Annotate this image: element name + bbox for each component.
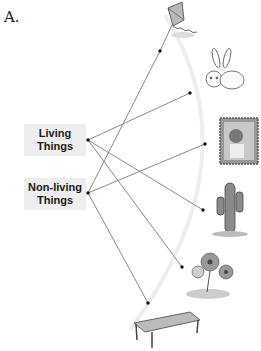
line-living-rabbit [88,93,190,140]
line-living-cactus [88,140,203,210]
dot-rabbit [188,91,191,94]
connection-lines [88,25,205,303]
kite-icon [168,2,197,38]
dot-stamp [203,142,206,145]
dot-table [146,301,149,304]
dot-cactus [201,208,204,211]
rabbit-icon [206,48,244,89]
line-nonliving-stamp [88,144,205,193]
kite-string [160,25,172,51]
cactus-icon [212,183,248,237]
table-icon [134,312,200,348]
matching-diagram [0,0,261,351]
flowers-icon [186,253,233,299]
dot-living [86,138,89,141]
dot-kite [158,49,161,52]
stamp-icon [220,118,258,164]
dot-nonliving [86,191,89,194]
dots [86,49,206,304]
dot-flowers [180,265,183,268]
line-nonliving-kite [88,51,160,193]
